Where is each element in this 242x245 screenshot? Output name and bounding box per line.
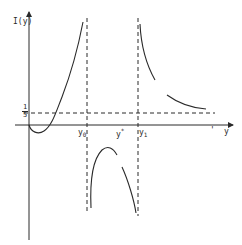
y-axis-label: I(y) — [13, 18, 32, 26]
fraction-numerator: 1 — [23, 103, 27, 111]
level-one-fifth-label: 1 5 — [22, 104, 28, 119]
stray-tick-mark: ' — [210, 127, 215, 135]
curve-branch-middle-left — [91, 148, 117, 208]
x-axis-label: y — [224, 128, 229, 136]
curve-branch-middle-right — [122, 167, 136, 213]
marker-y1-sub: 1 — [144, 131, 148, 138]
curve-branch-right-upper — [140, 24, 155, 80]
marker-y0-label: y0 — [78, 129, 86, 139]
curve-branch-left — [29, 22, 83, 133]
diagram-canvas — [0, 0, 242, 245]
marker-ystar-sup: * — [121, 127, 125, 134]
marker-y0-sub: 0 — [83, 131, 87, 138]
curve-branch-right-lower — [167, 95, 206, 109]
fraction-denominator: 5 — [23, 111, 27, 119]
marker-ystar-label: y* — [116, 127, 124, 139]
marker-y1-label: y1 — [139, 129, 147, 139]
